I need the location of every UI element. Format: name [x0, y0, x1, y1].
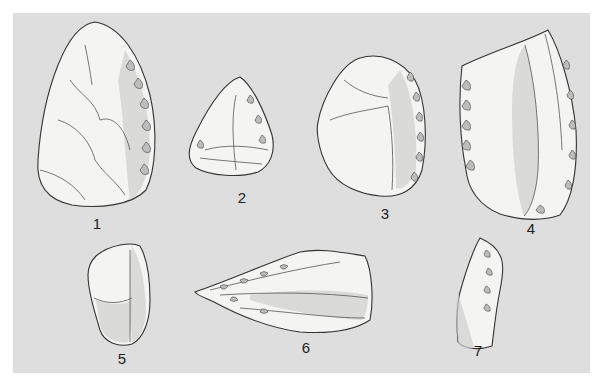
artifact-5-icon: [88, 244, 150, 345]
artifact-1-icon: [38, 22, 155, 206]
artifact-2-icon: [189, 77, 273, 175]
artifact-4-icon: [460, 30, 576, 219]
artifact-7-icon: [457, 238, 503, 349]
stone-tools-illustration: [0, 0, 602, 383]
artifact-label-7: 7: [474, 342, 482, 359]
artifact-label-5: 5: [118, 350, 126, 367]
artifact-label-4: 4: [527, 220, 535, 237]
artifact-label-6: 6: [302, 339, 310, 356]
artifact-label-2: 2: [238, 189, 246, 206]
artifact-label-3: 3: [381, 205, 389, 222]
artifact-6-icon: [195, 250, 372, 332]
artifact-3-icon: [317, 56, 425, 196]
artifact-label-1: 1: [93, 215, 101, 232]
